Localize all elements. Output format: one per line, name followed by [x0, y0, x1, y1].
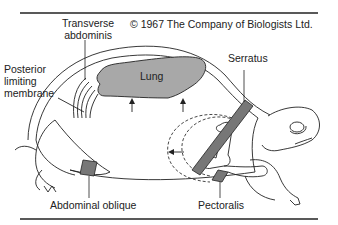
posterior-membrane-line [58, 98, 84, 112]
lung-compression-arrows [129, 98, 186, 112]
label-transverse-abdominis: Transverse abdominis [62, 17, 114, 41]
turtle-respiratory-diagram [0, 0, 338, 225]
pectoralis-muscle [212, 170, 228, 198]
abdominal-oblique-muscle [80, 160, 97, 198]
label-lung: Lung [140, 70, 163, 82]
transverse-abdominis-muscle [74, 78, 99, 118]
copyright-text: © 1967 The Company of Biologists Ltd. [130, 18, 313, 30]
serratus-muscle [192, 100, 253, 175]
label-pectoralis: Pectoralis [198, 199, 244, 211]
label-serratus: Serratus [228, 52, 268, 64]
label-abdominal-oblique: Abdominal oblique [50, 199, 136, 211]
label-posterior-limiting-membrane: Posterior limiting membrane [4, 63, 54, 99]
